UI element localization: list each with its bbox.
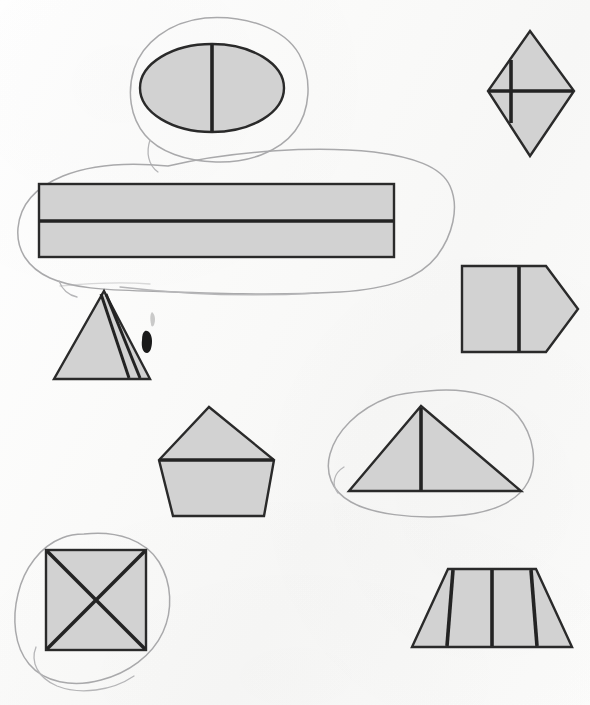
shape-pentagon-arrow-halved[interactable] xyxy=(458,262,582,356)
shape-ellipse-halved[interactable] xyxy=(136,40,288,136)
shape-pentagon-house-halved[interactable] xyxy=(156,404,278,520)
shape-rectangle-halved[interactable] xyxy=(36,181,398,263)
shape-triangle-striped[interactable] xyxy=(50,288,154,384)
shape-triangle-halved[interactable] xyxy=(345,403,525,495)
shape-rhombus-quartered[interactable] xyxy=(485,28,577,160)
shape-layer xyxy=(0,0,590,705)
shape-square-quartered[interactable] xyxy=(42,546,150,654)
worksheet-page: Partitioned Shapes Worksheet 9 shapes 4 … xyxy=(0,0,590,705)
shape-trapezoid-fourths[interactable] xyxy=(408,565,576,651)
